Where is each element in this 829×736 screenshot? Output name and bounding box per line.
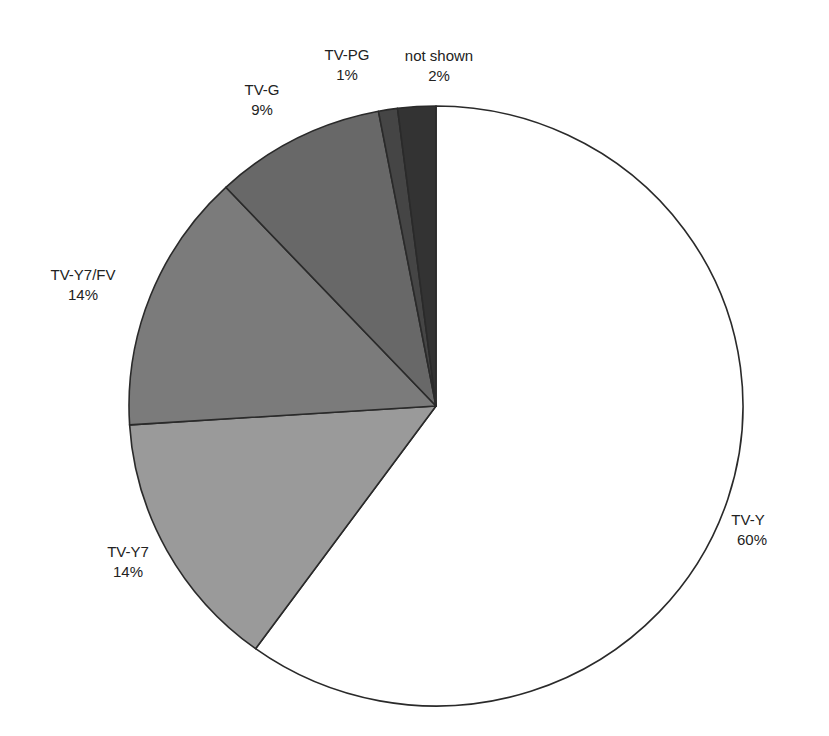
label-tv-pg: TV-PG1% — [324, 46, 369, 83]
label-not-shown: not shown2% — [405, 47, 473, 84]
label-tv-g: TV-G9% — [244, 81, 279, 118]
label-tv-y7-fv: TV-Y7/FV14% — [50, 266, 115, 303]
label-tv-y7: TV-Y714% — [107, 543, 149, 580]
label-tv-y: TV-Y60% — [731, 511, 767, 548]
pie-chart: TV-Y60% TV-Y714% TV-Y7/FV14% TV-G9% TV-P… — [0, 0, 829, 736]
pie-slices — [129, 106, 743, 706]
